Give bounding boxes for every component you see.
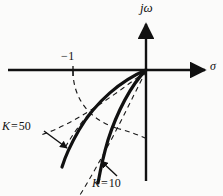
k10-label: K=10 [92, 177, 121, 189]
locus-branch-k10 [98, 70, 146, 183]
minus-one-label: −1 [61, 50, 75, 62]
figure-canvas [0, 0, 223, 196]
jomega-axis-label: jω [140, 1, 153, 14]
constant-wn-arc-lower [116, 128, 147, 139]
k50-symbol: K [2, 119, 10, 133]
asymptote-dashed-left [41, 71, 146, 135]
k10-symbol: K [92, 176, 100, 190]
callout-arrows [44, 131, 117, 176]
constant-wn-arc-upper [73, 71, 116, 128]
k10-value: 10 [109, 176, 121, 190]
axes-group [8, 24, 205, 181]
k10-equals: = [100, 176, 109, 190]
sigma-axis-label: σ [210, 60, 216, 72]
k50-value: 50 [19, 119, 31, 133]
root-locus-figure: jω σ −1 K=50 K=10 [0, 0, 223, 196]
k50-callout-arrow [44, 131, 67, 148]
k50-equals: = [10, 119, 19, 133]
k50-label: K=50 [2, 120, 31, 132]
k10-callout-arrow [101, 161, 117, 176]
root-locus-branches [62, 70, 146, 183]
